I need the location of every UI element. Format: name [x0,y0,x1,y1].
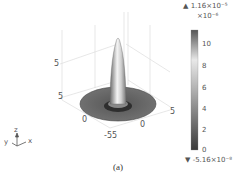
triad-y-label: y [4,138,8,146]
colorbar-multiplier: ×10⁻⁶ [197,12,218,20]
colorbar-tick-10: 10 [202,40,211,48]
axis-triad-icon [12,133,26,146]
colorbar-max-label: 1.16×10⁻⁵ [191,2,228,10]
min-marker-icon: ▼ [185,156,190,164]
colorbar-tick-2: 2 [202,126,206,134]
triad-z-label: z [14,126,18,134]
x-tick-5: 5 [170,107,175,116]
colorbar-max: ▲ 1.16×10⁻⁵ [183,2,227,10]
x-tick-0-left: 0 [82,115,87,124]
colorbar-tick-6: 6 [202,84,206,92]
peak-surface [110,38,126,104]
triad-x-label: x [28,137,32,145]
max-marker-icon: ▲ [183,2,188,10]
y-tick-5: 5 [58,92,63,101]
z-tick-5: 5 [54,59,59,68]
colorbar-min: ▼ -5.16×10⁻⁸ [185,156,232,164]
colorbar-min-label: -5.16×10⁻⁸ [193,156,232,164]
colorbar-tick-4: 4 [202,105,206,113]
colorbar-tick-0: 0 [202,146,206,154]
colorbar [191,30,198,150]
x-tick-0-right: 0 [140,120,145,129]
colorbar-tick-8: 8 [202,62,206,70]
bottom-tick-label: -55 [104,131,117,140]
figure-caption: (a) [113,162,123,172]
